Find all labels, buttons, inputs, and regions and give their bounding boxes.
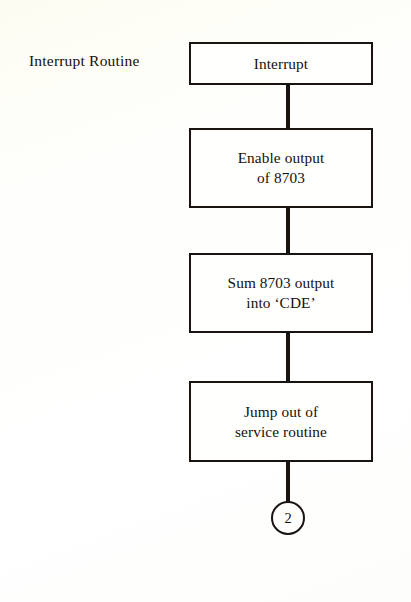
flowchart-node-label: Jump out of service routine — [229, 402, 333, 442]
flowchart-node-label: Interrupt — [248, 54, 314, 74]
connector-sum-output-to-jump-out — [286, 331, 290, 383]
connector-interrupt-to-enable-output — [286, 84, 290, 130]
off-page-connector-label: 2 — [284, 510, 291, 525]
flowchart-node-interrupt: Interrupt — [189, 42, 373, 85]
flowchart-node-label: Enable output of 8703 — [232, 148, 331, 188]
flowchart-node-enable-output: Enable output of 8703 — [189, 128, 373, 208]
flowchart-off-page-connector: 2 — [271, 501, 305, 535]
flowchart-page: Interrupt Routine Interrupt Enable outpu… — [0, 0, 411, 602]
flowchart-node-label: Sum 8703 output into ‘CDE’ — [222, 273, 341, 313]
connector-enable-output-to-sum-output — [286, 206, 290, 255]
connector-jump-out-to-off-page-connector — [286, 460, 290, 502]
diagram-side-label: Interrupt Routine — [29, 52, 140, 70]
flowchart-node-jump-out: Jump out of service routine — [189, 381, 373, 462]
flowchart-node-sum-output: Sum 8703 output into ‘CDE’ — [189, 253, 373, 333]
